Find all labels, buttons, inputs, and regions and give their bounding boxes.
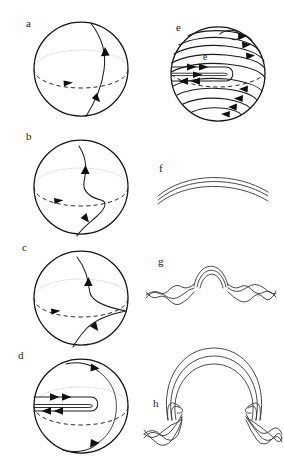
omega-loop-h-3 bbox=[175, 364, 253, 420]
panel-label-f: f bbox=[159, 163, 163, 174]
arrow-head-d-5 bbox=[91, 364, 100, 372]
field-line-c bbox=[73, 257, 126, 347]
arrow-head-e-3 bbox=[246, 53, 255, 60]
panel-label-h: h bbox=[153, 398, 159, 409]
sphere-outline-a bbox=[34, 22, 128, 116]
arrow-head-d-4 bbox=[42, 407, 52, 415]
arrow-head-b-1 bbox=[81, 165, 90, 174]
panel-label-e: e bbox=[176, 22, 181, 33]
panel-label-g: g bbox=[158, 256, 164, 267]
arch-g-3 bbox=[200, 274, 223, 288]
arrow-head-a-2 bbox=[92, 93, 100, 102]
arrow-head-e-12 bbox=[221, 111, 230, 118]
field-line-a bbox=[86, 24, 105, 117]
arrow-head-c-1 bbox=[84, 277, 93, 286]
sphere-outline-e bbox=[171, 27, 265, 121]
braid-g-right-strand-1 bbox=[228, 284, 276, 297]
braid-h-right-strand-4 bbox=[246, 417, 282, 442]
panel-b-graphic bbox=[0, 118, 142, 242]
panel-f-graphic bbox=[142, 150, 284, 230]
connector-right-d bbox=[98, 371, 116, 442]
field-line-b bbox=[77, 146, 105, 236]
panel-label-d: d bbox=[18, 350, 24, 361]
braid-g-right-strand-3 bbox=[228, 285, 276, 295]
arrow-head-e-8 bbox=[179, 78, 189, 85]
braid-h-left-strand-1 bbox=[144, 414, 182, 438]
sphere-outline-b bbox=[34, 140, 128, 234]
omega-loop-h-2 bbox=[171, 356, 258, 420]
panel-e-graphic bbox=[142, 0, 284, 132]
arrow-head-e-6 bbox=[193, 72, 203, 79]
arrow-head-d-3 bbox=[54, 407, 64, 415]
panel-inner-label-e: e bbox=[203, 53, 207, 63]
equator-back-c bbox=[34, 279, 128, 298]
braid-g-right-strand-2 bbox=[228, 291, 276, 302]
panel-label-b: b bbox=[26, 131, 32, 142]
sphere-outline-d bbox=[34, 359, 128, 453]
equator-back-a bbox=[34, 50, 128, 69]
arrow-head-d-1 bbox=[50, 393, 60, 401]
equator-dashed-a bbox=[34, 69, 128, 88]
panel-label-c: c bbox=[22, 242, 27, 253]
panel-h-graphic bbox=[142, 340, 284, 466]
arrow-head-d-2 bbox=[62, 393, 72, 401]
arrow-head-a-3 bbox=[64, 80, 74, 86]
panel-a-graphic bbox=[0, 0, 142, 124]
arrow-head-b-2 bbox=[81, 213, 89, 222]
arrow-head-e-4 bbox=[199, 64, 209, 71]
figure-root: a b c bbox=[0, 0, 284, 466]
sphere-outline-c bbox=[34, 251, 128, 345]
panel-label-a: a bbox=[26, 18, 31, 29]
flux-loop-inner-d bbox=[34, 405, 93, 408]
arrow-head-b-3 bbox=[54, 198, 64, 204]
arrow-head-c-3 bbox=[51, 309, 61, 315]
equator-dashed-b bbox=[34, 187, 128, 206]
equator-back-b bbox=[34, 168, 128, 187]
arch-g-1 bbox=[194, 266, 228, 286]
latitude-band-e-3 bbox=[174, 45, 264, 61]
